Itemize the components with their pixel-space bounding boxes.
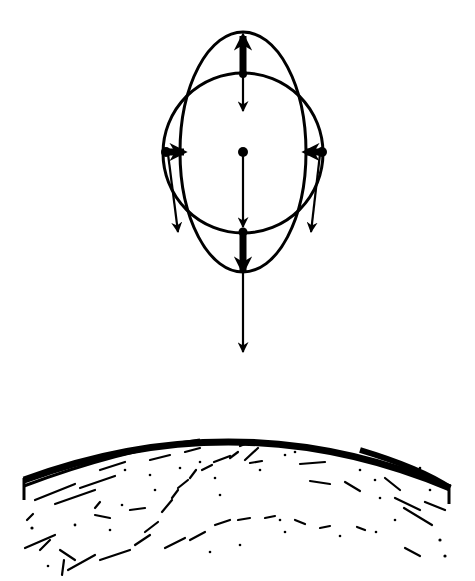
earth-rim — [24, 438, 450, 506]
left-pull-arrow-icon — [168, 154, 178, 232]
top-forces — [239, 36, 247, 111]
tidal-force-diagram — [0, 0, 475, 581]
earth — [24, 438, 450, 575]
bottom-forces — [239, 228, 248, 353]
